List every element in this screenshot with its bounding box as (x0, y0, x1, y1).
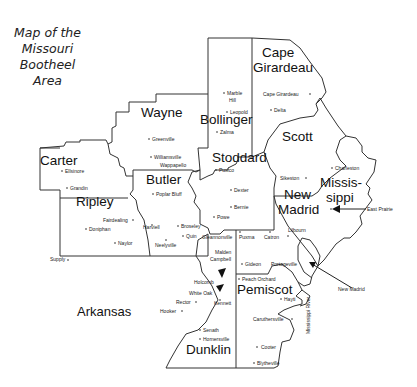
town-williamsville: Williamsville (154, 154, 181, 160)
town-broseley: Broseley (181, 223, 201, 229)
town-dot (177, 225, 179, 227)
town-portageville: Portageville (271, 261, 297, 267)
town-dot (305, 177, 307, 179)
county-mississippi-line2: sippi (326, 190, 354, 205)
county-new-madrid-line1: New (284, 187, 311, 202)
town-dot (182, 235, 184, 237)
town-grandin: Grandin (70, 185, 88, 191)
boundary-carter-top (40, 140, 108, 148)
town-caruthersville: Caruthersville (253, 316, 284, 322)
town-cape-girardeau: Cape Girardeau (263, 91, 299, 97)
county-wayne: Wayne (141, 105, 183, 120)
town-leopold: Leopold (230, 109, 248, 115)
town-ellsinore: Ellsinore (65, 168, 84, 174)
town-bernie: Bernie (234, 204, 249, 210)
town-white-oak: White Oak (189, 290, 213, 296)
town-dot (148, 138, 150, 140)
town-dot (291, 318, 293, 320)
label-mississippi-river: Mississippi River (305, 296, 311, 334)
town-catron: Catron (264, 234, 279, 240)
town-dot (85, 228, 87, 230)
town-dot (230, 189, 232, 191)
town-dot (270, 109, 272, 111)
town-greenville: Greenville (152, 136, 175, 142)
town-kennett: Kennett (214, 300, 232, 306)
county-pemiscot: Pemiscot (237, 282, 293, 297)
town-sikeston: Sikeston (280, 175, 299, 181)
county-butler: Butler (146, 172, 182, 187)
town-gideon: Gideon (245, 261, 261, 267)
town-marble-hill: Marble (227, 90, 243, 96)
town-hornersville: Hornersville (203, 336, 230, 342)
town-dot (309, 93, 311, 95)
town-dot (152, 193, 154, 195)
town-quin: Quin (186, 233, 197, 239)
town-dot (165, 239, 167, 241)
town-dot (213, 216, 215, 218)
town-dot (114, 242, 116, 244)
county-new-madrid-line2: Madrid (278, 202, 319, 217)
town-dot (132, 219, 134, 221)
town-poplar-bluff: Poplar Bluff (156, 191, 182, 197)
town-dot (199, 329, 201, 331)
town-hooker: Hooker (160, 308, 176, 314)
arrow-new-madrid (312, 264, 352, 288)
region-arkansas: Arkansas (77, 304, 132, 319)
river (298, 238, 320, 306)
town-rector: Rector (176, 299, 191, 305)
county-dunklin: Dunklin (186, 342, 231, 357)
county-cape-girardeau-line2: Girardeau (253, 60, 313, 75)
town-dot (216, 131, 218, 133)
county-scott: Scott (282, 129, 313, 144)
town-wappapello: Wappapello (160, 162, 186, 168)
town-dot (219, 299, 221, 301)
town-dot (331, 167, 333, 169)
town-dot (66, 187, 68, 189)
town-dot (269, 231, 271, 233)
town-lilbourn: Lilbourn (288, 227, 306, 233)
town-dot (61, 170, 63, 172)
map-canvas: Cape Girardeau Wayne Bollinger Scott Car… (0, 0, 417, 387)
town-peach-orchard: Peach Orchard (242, 276, 276, 282)
town-dot (223, 92, 225, 94)
county-carter: Carter (40, 153, 78, 168)
town-east-prairie: East Prairie (367, 206, 393, 212)
town-dot (253, 362, 255, 364)
town-dot (238, 278, 240, 280)
town-powe: Powe (217, 214, 230, 220)
town-dot (226, 111, 228, 113)
town-gleannonville: Gleannonville (202, 234, 233, 240)
arrowhead-east-prairie (332, 205, 340, 213)
town-puxma: Puxma (239, 234, 255, 240)
town-neelyville: Neelyville (155, 242, 177, 248)
town-cooter: Cooter (261, 344, 276, 350)
town-charleston: Charleston (335, 165, 359, 171)
town-marble-hill-2: Hill (229, 97, 236, 103)
town-dexter: Dexter (234, 187, 249, 193)
town-zalma: Zalma (220, 129, 234, 135)
town-supply: Supply (50, 256, 66, 262)
town-senath: Senath (203, 327, 219, 333)
county-cape-girardeau-line1: Cape (262, 45, 294, 60)
town-fairdealing: Fairdealing (103, 217, 128, 223)
town-dot (181, 310, 183, 312)
town-campbell: Campbell (210, 256, 231, 262)
town-dot (330, 208, 332, 210)
county-ripley: Ripley (76, 194, 114, 209)
town-labels: Marble Hill Leopold Zalma Cape Girardeau… (50, 90, 393, 366)
town-harviell: Harviell (143, 224, 160, 230)
town-hayti: Hayti (284, 296, 295, 302)
town-dot (256, 346, 258, 348)
town-holcomb: Holcomb (194, 279, 214, 285)
arrowhead-holcomb (216, 284, 224, 292)
town-puxico: Puxico (219, 167, 234, 173)
town-malden: Malden (215, 249, 232, 255)
town-dot (150, 156, 152, 158)
arrowhead-malden (218, 268, 226, 278)
town-blytheville: Blytheville (257, 360, 280, 366)
town-delta: Delta (274, 107, 286, 113)
town-dot (241, 263, 243, 265)
town-dot (230, 206, 232, 208)
town-dot (67, 259, 69, 261)
county-mississippi-line1: Missis- (320, 175, 362, 190)
